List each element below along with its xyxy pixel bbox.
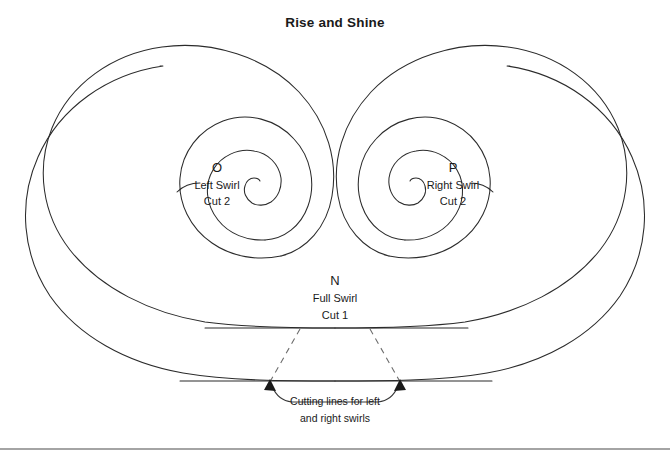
annotation-text-group: Cutting lines for left and right swirls [290, 395, 380, 424]
swirl-pattern-diagram: Rise and Shine [0, 0, 670, 466]
right-swirl-outer-curve [335, 45, 627, 328]
left-swirl-shape [26, 45, 336, 381]
right-swirl-name: Right Swirl [427, 179, 480, 191]
cutting-line-left [271, 329, 300, 380]
full-swirl-name: Full Swirl [313, 292, 358, 304]
full-swirl-letter: N [330, 273, 339, 288]
left-swirl-outer-curve [43, 45, 335, 328]
right-swirl-ring-2 [335, 66, 645, 381]
left-swirl-label-group: O Left Swirl Cut 2 [194, 160, 239, 207]
left-swirl-ring-2 [26, 66, 336, 381]
right-swirl-cut: Cut 2 [440, 195, 466, 207]
page-title: Rise and Shine [285, 15, 385, 30]
cutting-line-right [370, 329, 399, 380]
annotation-line-2: and right swirls [300, 412, 370, 424]
right-swirl-label-group: P Right Swirl Cut 2 [427, 160, 480, 207]
pattern-diagram-page: Rise and Shine [0, 0, 670, 466]
full-swirl-label-group: N Full Swirl Cut 1 [313, 273, 358, 321]
left-swirl-letter: O [212, 160, 222, 175]
left-swirl-name: Left Swirl [194, 179, 239, 191]
full-swirl-cut: Cut 1 [322, 309, 348, 321]
right-swirl-shape [335, 45, 645, 381]
left-swirl-cut: Cut 2 [204, 195, 230, 207]
annotation-line-1: Cutting lines for left [290, 395, 380, 407]
right-swirl-letter: P [449, 160, 458, 175]
